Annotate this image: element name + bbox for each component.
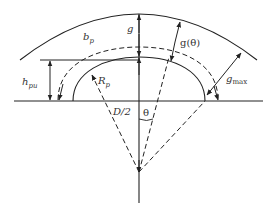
g-theta-arrow-lower: [171, 42, 175, 61]
label-g-max: gmax: [226, 73, 247, 86]
pole-arc-right-arrow: [214, 86, 218, 100]
theta-angle-arc: [139, 119, 153, 121]
label-d-half: D/2: [112, 106, 131, 117]
label-b-p: bp: [83, 31, 94, 45]
air-gap-diagram: g bp hpu Rp D/2 θ g(θ) gmax: [0, 0, 277, 210]
label-theta: θ: [143, 107, 149, 118]
label-r-p: Rp: [97, 75, 111, 89]
label-g-theta: g(θ): [180, 37, 200, 48]
pole-arc-outline: [58, 47, 218, 100]
g-max-arrow: [224, 53, 241, 74]
pole-arc-left-arrow: [59, 84, 63, 100]
diagram-canvas: g bp hpu Rp D/2 θ g(θ) gmax: [0, 0, 277, 210]
radial-ray-left: [92, 75, 139, 172]
label-h-pu: hpu: [22, 76, 38, 90]
label-g: g: [127, 23, 133, 34]
